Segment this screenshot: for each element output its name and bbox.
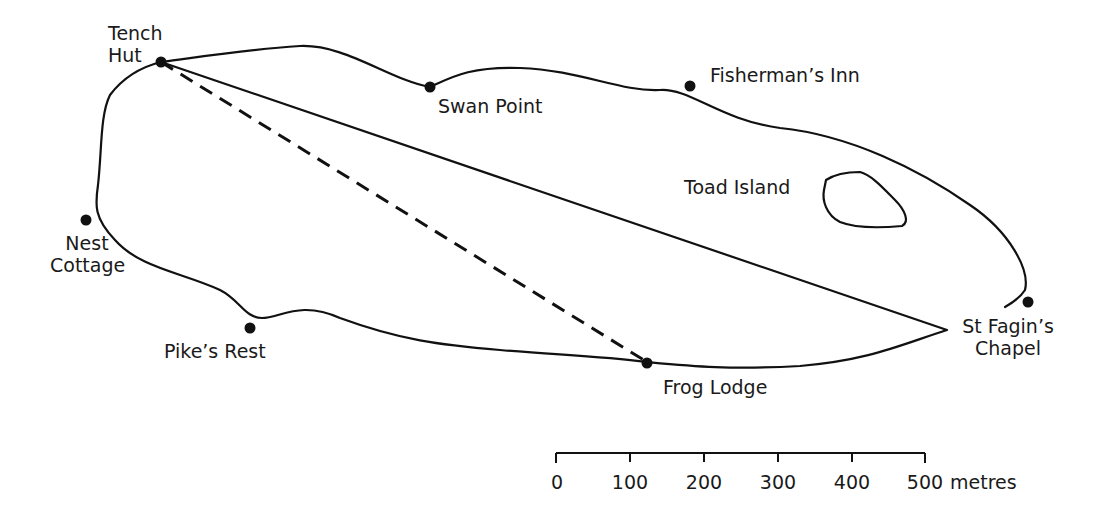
scale-tick-300: 300 (760, 471, 796, 493)
place-dot-nest-cottage[interactable] (81, 215, 92, 226)
route-dashed-line (161, 62, 647, 362)
lake-map (0, 0, 1099, 516)
place-dot-st-fagins-chapel[interactable] (1023, 297, 1034, 308)
place-dot-fishermans-inn[interactable] (685, 81, 696, 92)
place-dot-frog-lodge[interactable] (642, 358, 653, 369)
label-nest-cottage: Nest Cottage (50, 232, 124, 276)
label-swan-point: Swan Point (438, 95, 543, 117)
place-dot-swan-point[interactable] (425, 82, 436, 93)
lake-shoreline (161, 46, 1026, 307)
label-toad-island: Toad Island (684, 176, 790, 198)
label-frog-lodge: Frog Lodge (663, 376, 767, 398)
label-tench-hut: Tench Hut (108, 22, 163, 66)
toad-island-outline (824, 172, 906, 227)
scale-tick-0: 0 (551, 471, 563, 493)
place-dot-pikes-rest[interactable] (245, 323, 256, 334)
label-pikes-rest: Pike’s Rest (164, 340, 266, 362)
scale-bar (556, 453, 925, 463)
label-fishermans-inn: Fisherman’s Inn (710, 64, 860, 86)
scale-tick-100: 100 (612, 471, 648, 493)
scale-tick-400: 400 (834, 471, 870, 493)
scale-unit: metres (950, 471, 1017, 493)
scale-tick-500: 500 (907, 471, 943, 493)
label-st-fagins-chapel: St Fagin’s Chapel (952, 315, 1064, 359)
scale-tick-200: 200 (686, 471, 722, 493)
